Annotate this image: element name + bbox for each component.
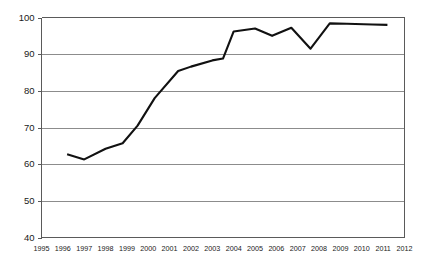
y-tick-label-80: 80 <box>24 85 35 96</box>
x-tick-label-1998: 1998 <box>98 244 114 253</box>
x-tick-label-1999: 1999 <box>119 244 135 253</box>
x-tick-label-2007: 2007 <box>290 244 306 253</box>
x-tick-label-2012: 2012 <box>397 244 413 253</box>
x-tick-label-2001: 2001 <box>162 244 178 253</box>
y-tick-label-90: 90 <box>24 48 35 59</box>
x-tick-label-1996: 1996 <box>55 244 71 253</box>
x-tick-label-2000: 2000 <box>140 244 156 253</box>
x-axis-labels: 1995199619971998199920002001200220032004… <box>34 244 413 253</box>
y-tick-label-100: 100 <box>19 12 35 23</box>
x-tick-label-1997: 1997 <box>76 244 92 253</box>
y-tick-label-40: 40 <box>24 232 35 243</box>
y-axis-labels: 405060708090100 <box>19 12 35 243</box>
x-tick-label-2004: 2004 <box>226 244 242 253</box>
x-tick-label-2005: 2005 <box>247 244 263 253</box>
line-chart: 405060708090100 199519961997199819992000… <box>0 0 424 265</box>
grid-lines <box>42 55 405 202</box>
x-tick-label-2003: 2003 <box>204 244 220 253</box>
x-tick-label-2011: 2011 <box>375 244 390 253</box>
y-tick-label-50: 50 <box>24 195 35 206</box>
y-tick-label-60: 60 <box>24 158 35 169</box>
x-tick-label-2002: 2002 <box>183 244 199 253</box>
x-tick-label-1995: 1995 <box>34 244 50 253</box>
x-tick-label-2010: 2010 <box>354 244 370 253</box>
plot-border <box>42 18 405 238</box>
y-tick-label-70: 70 <box>24 122 35 133</box>
x-tick-label-2009: 2009 <box>332 244 348 253</box>
x-tick-label-2008: 2008 <box>311 244 327 253</box>
chart-container: 405060708090100 199519961997199819992000… <box>0 0 424 265</box>
x-tick-label-2006: 2006 <box>268 244 284 253</box>
